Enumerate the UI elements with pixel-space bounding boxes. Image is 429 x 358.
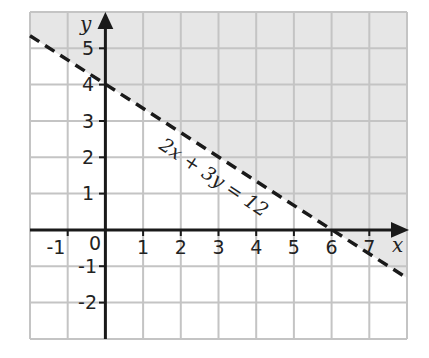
x-axis-label: x bbox=[392, 233, 403, 257]
x-tick-label: 1 bbox=[137, 236, 149, 258]
x-tick-label: -1 bbox=[47, 236, 66, 258]
x-tick-label: 7 bbox=[363, 236, 375, 258]
y-tick-label: 2 bbox=[82, 146, 94, 168]
x-tick-label: 3 bbox=[212, 236, 224, 258]
origin-label: 0 bbox=[89, 232, 101, 254]
x-tick-label: 2 bbox=[175, 236, 187, 258]
inequality-graph: -1 1 2 3 4 5 6 7 0 5 4 3 2 1 -1 -2 y x 2… bbox=[0, 0, 429, 358]
x-tick-label: 4 bbox=[250, 236, 262, 258]
y-tick-label: -2 bbox=[78, 291, 97, 313]
y-tick-label: -1 bbox=[78, 255, 97, 277]
y-tick-label: 5 bbox=[82, 37, 94, 59]
y-tick-label: 1 bbox=[82, 182, 94, 204]
x-tick-label: 6 bbox=[326, 236, 338, 258]
y-axis-label: y bbox=[79, 12, 92, 36]
y-tick-label: 3 bbox=[82, 110, 94, 132]
y-tick-label: 4 bbox=[82, 73, 94, 95]
x-tick-label: 5 bbox=[288, 236, 300, 258]
